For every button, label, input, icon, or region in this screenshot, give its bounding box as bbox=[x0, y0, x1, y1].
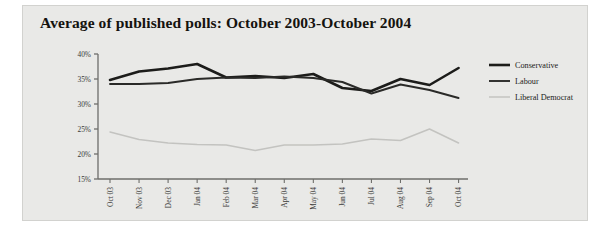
legend-label-conservative: Conservative bbox=[515, 61, 559, 70]
x-axis-tick-label: Aug 04 bbox=[396, 187, 405, 209]
y-axis-tick-label: 35% bbox=[77, 75, 91, 84]
x-axis-tick-label: Nov 03 bbox=[135, 187, 144, 209]
x-axis-tick-label: Jul 04 bbox=[367, 187, 376, 205]
x-axis-tick-label: Sep 04 bbox=[425, 187, 434, 208]
x-axis-tick-label: Oct 03 bbox=[106, 187, 115, 207]
x-axis-tick-label: Jan 04 bbox=[193, 187, 202, 206]
x-axis-tick-label: Oct 04 bbox=[454, 187, 463, 207]
legend-label-labour: Labour bbox=[515, 77, 539, 86]
y-axis-tick-label: 20% bbox=[77, 150, 91, 159]
y-axis-tick-label: 40% bbox=[77, 50, 91, 59]
x-axis-tick-label: Dec 03 bbox=[164, 187, 173, 208]
x-axis-tick-label: Mar 04 bbox=[251, 187, 260, 209]
legend-label-liberal-democrat: Liberal Democrat bbox=[515, 93, 574, 102]
series-line-conservative bbox=[110, 64, 459, 91]
y-axis-tick-label: 15% bbox=[77, 175, 91, 184]
y-axis-tick-label: 30% bbox=[77, 100, 91, 109]
x-axis-tick-label: Jun 04 bbox=[338, 187, 347, 207]
series-line-liberal-democrat bbox=[110, 129, 459, 151]
x-axis-tick-label: May 04 bbox=[309, 187, 318, 210]
plot-area: 15%20%25%30%35%40%Oct 03Nov 03Dec 03Jan … bbox=[23, 6, 589, 222]
line-chart-svg: 15%20%25%30%35%40%Oct 03Nov 03Dec 03Jan … bbox=[23, 6, 589, 222]
x-axis-tick-label: Apr 04 bbox=[280, 187, 289, 208]
y-axis-tick-label: 25% bbox=[77, 125, 91, 134]
x-axis-tick-label: Feb 04 bbox=[222, 187, 231, 208]
chart-figure: Average of published polls: October 2003… bbox=[22, 5, 588, 221]
